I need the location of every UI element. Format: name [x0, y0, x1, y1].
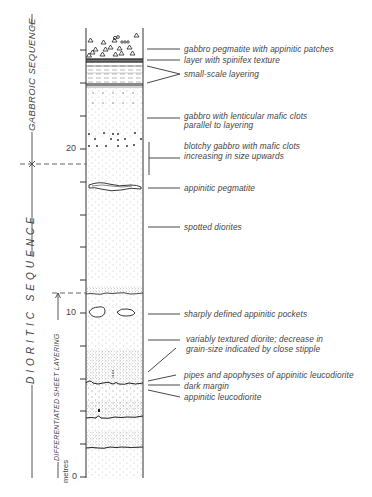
unit-label: metres	[61, 460, 70, 483]
annotation-blotchy-gabbro-1: blotchy gabbro with mafic clots	[184, 141, 300, 151]
annotation-pipes-apophyses: pipes and apophyses of appinitic leucodi…	[184, 370, 354, 380]
differentiated-sheet-layering-label: DIFFERENTIATED SHEET LAYERING	[53, 334, 60, 461]
annotation-gabbro-pegmatite: gabbro pegmatite with appinitic patches	[184, 44, 334, 54]
scale-label-10: 10	[66, 307, 76, 317]
scale-label-20: 20	[66, 143, 76, 153]
annotation-appinitic-leucodiorite: appinitic leucodiorite	[184, 392, 261, 402]
annotation-spinifex: layer with spinifex texture	[184, 55, 280, 65]
annotation-appinitic-pegmatite: appinitic pegmatite	[184, 183, 255, 193]
column-fill	[86, 30, 143, 478]
annotation-spotted-diorites: spotted diorites	[184, 222, 242, 232]
scale-label-0: 0	[72, 471, 77, 481]
annotation-lenticular-gabbro-2: parallel to layering	[184, 120, 253, 130]
annotation-small-scale-layering: small-scale layering	[184, 69, 259, 79]
annotation-blotchy-gabbro-2: increasing in size upwards	[184, 151, 284, 161]
annotation-appinitic-pockets: sharply defined appinitic pockets	[184, 309, 307, 319]
annotation-dark-margin: dark margin	[184, 381, 229, 391]
annotation-variably-textured-2: grain-size indicated by close stipple	[186, 344, 320, 354]
leader-lines	[147, 49, 180, 397]
scale-ticks	[80, 50, 86, 477]
annotation-variably-textured-1: variably textured diorite; decrease in	[186, 334, 323, 344]
gabbroic-sequence-label: GABBROIC SEQUENCE	[26, 18, 37, 131]
dioritic-sequence-label: DIORITIC SEQUENCE	[25, 213, 36, 384]
